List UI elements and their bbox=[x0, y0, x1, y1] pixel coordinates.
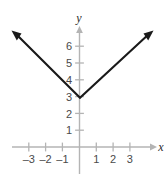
x-tick-label-2: 2 bbox=[110, 153, 116, 165]
y-tick-label-1: 1 bbox=[66, 124, 72, 136]
curve-right-arrow-icon bbox=[144, 31, 154, 41]
graph-figure: –3 –2 –1 1 2 3 1 2 3 4 5 6 y x bbox=[0, 0, 168, 179]
absolute-value-curve bbox=[15, 33, 150, 98]
x-tick-label--2: –2 bbox=[39, 153, 51, 165]
y-tick-label-5: 5 bbox=[66, 57, 72, 69]
x-tick-label--3: –3 bbox=[23, 153, 35, 165]
y-axis-label: y bbox=[75, 11, 82, 25]
y-tick-label-3: 3 bbox=[66, 91, 72, 103]
x-tick-label-3: 3 bbox=[127, 153, 133, 165]
y-tick-label-4: 4 bbox=[66, 74, 72, 86]
y-tick-label-2: 2 bbox=[66, 108, 72, 120]
x-tick-label--1: –1 bbox=[56, 153, 68, 165]
x-axis-label: x bbox=[157, 140, 164, 154]
coordinate-plane: –3 –2 –1 1 2 3 1 2 3 4 5 6 y x bbox=[0, 0, 168, 179]
x-tick-label-1: 1 bbox=[93, 153, 99, 165]
y-tick-label-6: 6 bbox=[66, 40, 72, 52]
x-axis-arrow-icon bbox=[150, 144, 157, 151]
y-axis-arrow-icon bbox=[76, 26, 83, 33]
